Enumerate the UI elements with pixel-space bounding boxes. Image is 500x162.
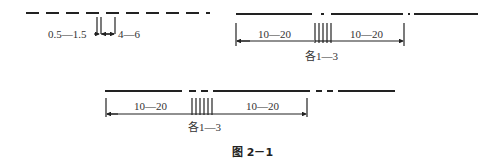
diagram-a-marks bbox=[94, 17, 115, 34]
figure-caption: 图 2－1 bbox=[232, 143, 273, 159]
label-b-each: 各1—3 bbox=[305, 50, 338, 62]
label-spacing: 4—6 bbox=[118, 28, 140, 40]
label-b-right-span: 10—20 bbox=[350, 28, 383, 40]
figure-canvas bbox=[0, 0, 500, 162]
label-c-right-span: 10—20 bbox=[246, 100, 279, 112]
label-b-left-span: 10—20 bbox=[258, 28, 291, 40]
label-c-left-span: 10—20 bbox=[134, 100, 167, 112]
label-c-each: 各1—3 bbox=[188, 121, 221, 133]
label-gap-width: 0.5—1.5 bbox=[48, 28, 87, 40]
